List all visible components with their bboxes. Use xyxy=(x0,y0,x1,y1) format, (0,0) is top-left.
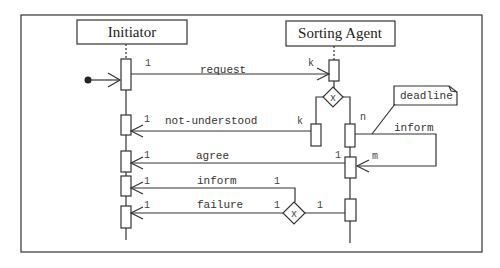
message-failure: x failure 1 1 1 xyxy=(131,199,345,224)
activation-bar xyxy=(345,199,356,221)
multiplicity: m xyxy=(372,151,378,162)
activation-bar xyxy=(311,124,321,146)
initiator-lifeline xyxy=(121,44,131,240)
activation-bar xyxy=(345,157,356,178)
role-sorting-agent-label: Sorting Agent xyxy=(298,25,383,41)
multiplicity: 1 xyxy=(144,150,150,161)
message-request: request 1 k xyxy=(131,58,329,80)
multiplicity: k xyxy=(308,58,314,69)
activation-bar xyxy=(121,176,131,196)
message-label: request xyxy=(200,64,246,76)
multiplicity: 1 xyxy=(144,176,150,187)
message-agree: agree 1 1 xyxy=(131,150,345,169)
message-inform: inform 1 1 xyxy=(131,175,295,202)
activation-bar xyxy=(121,206,131,228)
multiplicity: 1 xyxy=(335,150,341,161)
role-initiator-label: Initiator xyxy=(108,24,156,40)
activation-bar xyxy=(121,115,131,135)
message-inform-self: inform n m xyxy=(355,112,436,172)
role-initiator: Initiator xyxy=(77,20,187,44)
initial-state xyxy=(85,73,121,87)
activation-bar xyxy=(329,60,339,81)
activation-bar xyxy=(345,124,355,147)
multiplicity: 1 xyxy=(145,58,151,69)
multiplicity: 1 xyxy=(274,176,280,187)
multiplicity: 1 xyxy=(317,200,323,211)
message-label: not-understood xyxy=(165,115,257,127)
multiplicity: 1 xyxy=(144,200,150,211)
message-not-understood: not-understood 1 k xyxy=(131,114,311,137)
multiplicity: n xyxy=(360,112,366,123)
note-label: deadline xyxy=(400,90,453,102)
activation-bar xyxy=(121,59,131,90)
multiplicity: k xyxy=(297,116,303,127)
activation-bar xyxy=(121,151,131,172)
multiplicity: 1 xyxy=(274,200,280,211)
protocol-diagram: Initiator Sorting Agent x xyxy=(0,0,500,268)
message-label: agree xyxy=(196,150,229,162)
message-label: inform xyxy=(197,175,237,187)
xor-label: x xyxy=(291,209,297,220)
message-label: inform xyxy=(394,122,434,134)
role-sorting-agent: Sorting Agent xyxy=(286,21,395,46)
xor-label: x xyxy=(330,93,336,104)
message-label: failure xyxy=(197,199,243,211)
multiplicity: 1 xyxy=(144,114,150,125)
